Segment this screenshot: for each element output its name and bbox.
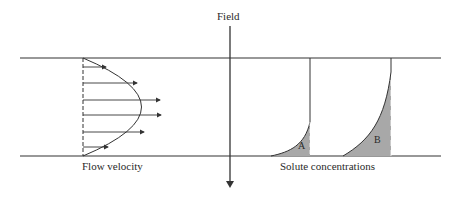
solute-concentrations-label: Solute concentrations <box>280 160 375 172</box>
solute-b-profile <box>343 58 391 156</box>
solute-b-label: B <box>374 134 381 145</box>
field-label: Field <box>217 10 240 22</box>
field-arrowhead-icon <box>226 181 234 188</box>
diagram-canvas <box>0 0 460 199</box>
flow-velocity-profile <box>83 58 161 156</box>
solute-a-label: A <box>298 140 305 151</box>
flow-velocity-label: Flow velocity <box>82 160 143 172</box>
